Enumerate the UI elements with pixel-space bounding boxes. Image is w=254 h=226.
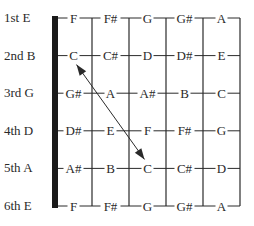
string-labels: 1st E2nd B3rd G4th D5th A6th E: [4, 10, 36, 213]
note-label: B: [180, 86, 189, 101]
note-label: F: [70, 11, 77, 26]
string-label: 2nd B: [4, 48, 36, 63]
note-label: D#: [66, 123, 82, 138]
note-label: A#: [140, 86, 156, 101]
string-label: 6th E: [4, 198, 32, 213]
note-label: G: [143, 11, 152, 26]
note-label: F#: [104, 11, 118, 26]
arrow-shaft: [77, 65, 145, 160]
note-label: C: [69, 48, 78, 63]
note-label: F#: [104, 199, 118, 214]
note-label: F: [144, 123, 151, 138]
fretboard-diagram: FF#GG#ACC#DD#EG#AA#BCD#EFF#GA#BCC#DFF#GG…: [0, 0, 254, 226]
note-label: G#: [177, 199, 193, 214]
note-label: G: [143, 199, 152, 214]
note-label: A: [217, 11, 227, 26]
fret-lines: [52, 16, 240, 208]
note-label: A#: [66, 161, 82, 176]
note-label: D: [217, 161, 226, 176]
note-label: E: [107, 123, 115, 138]
note-label: F#: [178, 123, 192, 138]
note-label: C#: [177, 161, 193, 176]
arrowhead-end-icon: [135, 148, 145, 159]
note-label: F: [70, 199, 77, 214]
string-label: 4th D: [4, 123, 33, 138]
note-label: A: [106, 86, 116, 101]
string-label: 3rd G: [4, 85, 34, 100]
arrowhead-start-icon: [77, 65, 87, 76]
string-label: 1st E: [4, 10, 30, 25]
note-label: G: [217, 123, 226, 138]
note-label: C#: [103, 48, 119, 63]
note-label: G#: [177, 11, 193, 26]
note-label: D: [143, 48, 152, 63]
note-label: D#: [177, 48, 193, 63]
note-label: C: [217, 86, 226, 101]
note-label: E: [218, 48, 226, 63]
string-rows: FF#GG#ACC#DD#EG#AA#BCD#EFF#GA#BCC#DFF#GG…: [58, 11, 240, 214]
interval-arrow: [77, 65, 145, 160]
nut: [52, 16, 58, 208]
note-label: G#: [66, 86, 82, 101]
string-label: 5th A: [4, 160, 33, 175]
note-label: C: [143, 161, 152, 176]
note-label: A: [217, 199, 227, 214]
note-label: B: [106, 161, 115, 176]
